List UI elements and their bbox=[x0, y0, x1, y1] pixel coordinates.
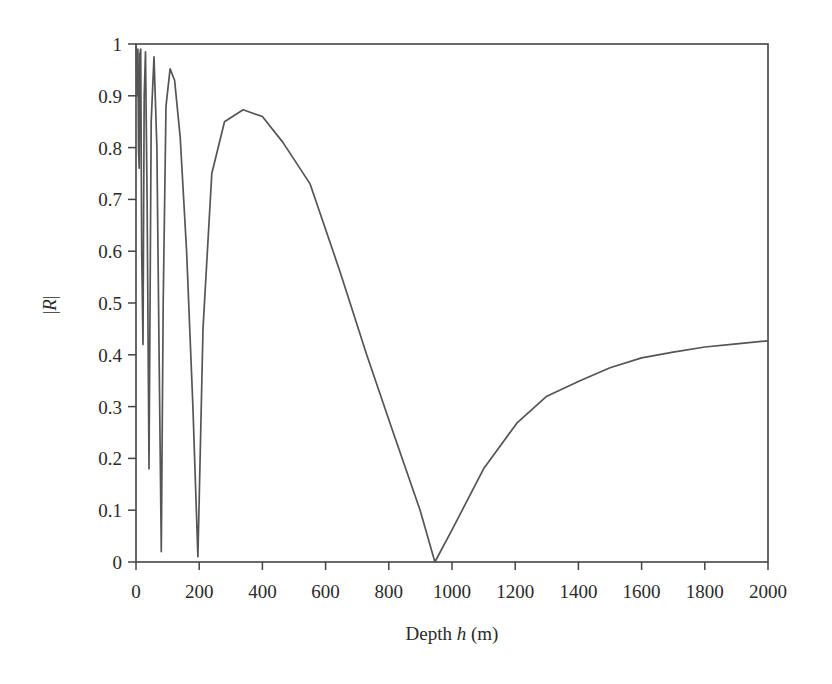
y-tick-label: 0.1 bbox=[98, 500, 122, 521]
x-tick-label: 1400 bbox=[559, 581, 597, 602]
x-tick-label: 1200 bbox=[496, 581, 534, 602]
y-tick-label: 0.6 bbox=[98, 241, 122, 262]
y-axis-ticks: 00.10.20.30.40.50.60.70.80.91 bbox=[98, 34, 136, 573]
x-tick-label: 200 bbox=[185, 581, 214, 602]
x-tick-label: 800 bbox=[375, 581, 404, 602]
y-tick-label: 0.7 bbox=[98, 189, 122, 210]
y-tick-label: 0 bbox=[113, 552, 123, 573]
y-axis-label: |R| bbox=[39, 295, 60, 314]
y-tick-label: 0.8 bbox=[98, 138, 122, 159]
x-tick-label: 600 bbox=[311, 581, 340, 602]
x-tick-label: 0 bbox=[131, 581, 141, 602]
plot-frame bbox=[136, 44, 768, 562]
x-tick-label: 1000 bbox=[433, 581, 471, 602]
x-tick-label: 2000 bbox=[749, 581, 787, 602]
x-axis-ticks: 0200400600800100012001400160018002000 bbox=[131, 562, 787, 602]
y-tick-label: 0.5 bbox=[98, 293, 122, 314]
y-tick-label: 0.9 bbox=[98, 86, 122, 107]
x-tick-label: 1600 bbox=[623, 581, 661, 602]
y-tick-label: 1 bbox=[113, 34, 123, 55]
y-tick-label: 0.3 bbox=[98, 397, 122, 418]
chart: 00.10.20.30.40.50.60.70.80.91 0200400600… bbox=[0, 0, 832, 684]
y-tick-label: 0.4 bbox=[98, 345, 122, 366]
x-axis-label: Depth h (m) bbox=[406, 623, 499, 645]
x-tick-label: 1800 bbox=[686, 581, 724, 602]
x-tick-label: 400 bbox=[248, 581, 277, 602]
reflection-coefficient-curve bbox=[136, 44, 768, 562]
y-tick-label: 0.2 bbox=[98, 448, 122, 469]
